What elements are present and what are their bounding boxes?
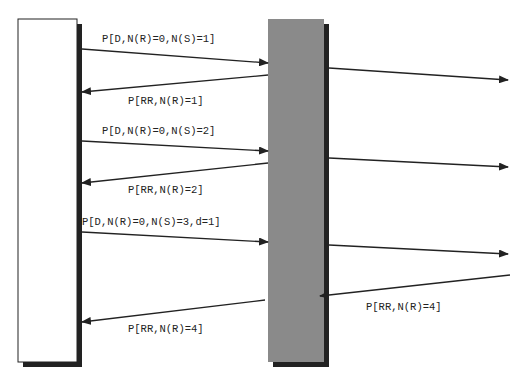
left-station-box [18, 19, 82, 367]
message-arrow-5: P[D,N(R)=0,N(S)=3,d=1] [82, 216, 268, 242]
message-arrow-2: P[RR,N(R)=1] [82, 75, 268, 107]
message-label-1: P[D,N(R)=0,N(S)=1] [102, 33, 215, 45]
message-arrow-1: P[D,N(R)=0,N(S)=1] [82, 33, 268, 63]
forward-arrow-1 [329, 68, 508, 80]
incoming-label: P[RR,N(R)=4] [366, 301, 442, 313]
middle-node-box [268, 19, 329, 367]
message-arrow-3: P[D,N(R)=0,N(S)=2] [82, 125, 268, 151]
sequence-diagram: P[D,N(R)=0,N(S)=1] P[RR,N(R)=1] P[D,N(R)… [0, 0, 525, 382]
message-label-2: P[RR,N(R)=1] [128, 95, 204, 107]
message-arrow-6: P[RR,N(R)=4] [82, 300, 265, 335]
message-label-3: P[D,N(R)=0,N(S)=2] [102, 125, 215, 137]
forward-arrow-3 [329, 245, 508, 254]
forward-arrow-2 [329, 158, 508, 167]
message-arrow-4: P[RR,N(R)=2] [82, 163, 268, 196]
message-label-4: P[RR,N(R)=2] [128, 184, 204, 196]
incoming-arrow: P[RR,N(R)=4] [320, 275, 510, 313]
message-label-5: P[D,N(R)=0,N(S)=3,d=1] [82, 216, 221, 228]
message-label-6: P[RR,N(R)=4] [128, 323, 204, 335]
